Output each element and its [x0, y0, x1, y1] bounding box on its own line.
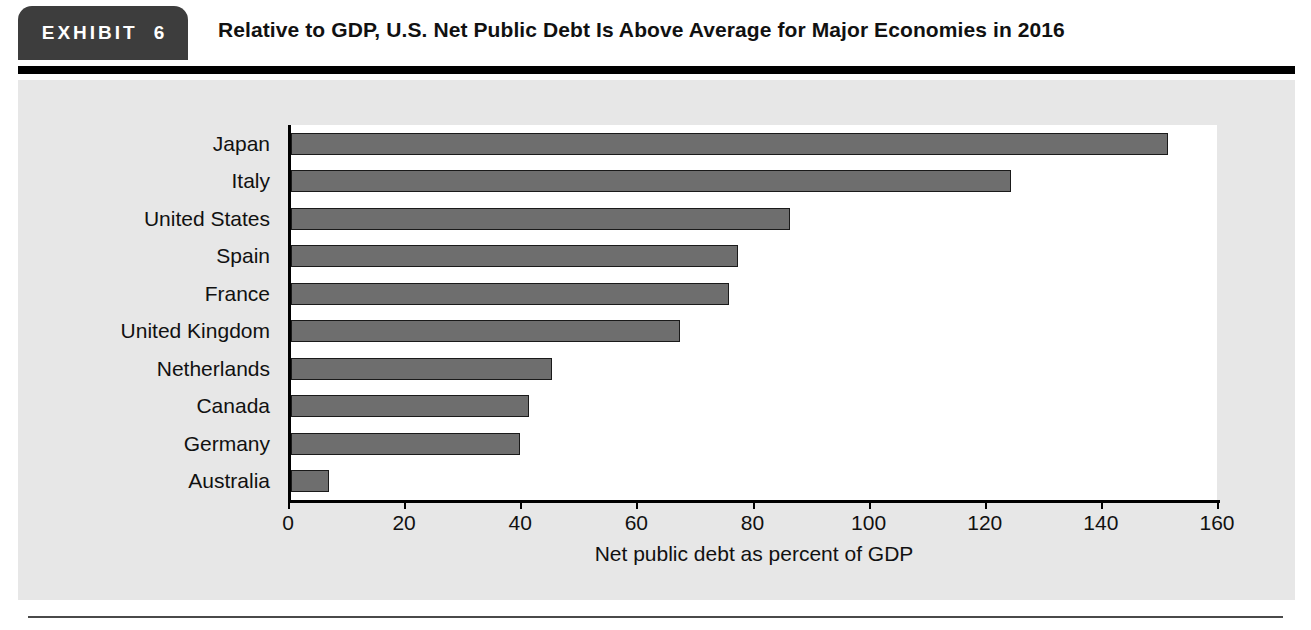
bar-row [291, 200, 1220, 238]
x-axis-tick-label: 160 [1199, 511, 1234, 535]
bar-row [291, 463, 1220, 501]
y-axis-tick-label: United Kingdom [18, 313, 280, 351]
x-axis-tick-mark [869, 500, 871, 509]
bar [291, 245, 738, 267]
bar [291, 170, 1011, 192]
y-axis-tick-labels: JapanItalyUnited StatesSpainFranceUnited… [18, 125, 280, 500]
chart-panel: JapanItalyUnited StatesSpainFranceUnited… [18, 80, 1295, 600]
y-axis-tick-label: Netherlands [18, 350, 280, 388]
y-axis-tick-label: Japan [18, 125, 280, 163]
exhibit-figure: EXHIBIT 6 Relative to GDP, U.S. Net Publ… [0, 0, 1311, 630]
bar-row [291, 425, 1220, 463]
y-axis-tick-label-text: Netherlands [157, 357, 270, 381]
exhibit-badge: EXHIBIT 6 [18, 6, 188, 60]
exhibit-badge-number: 6 [154, 22, 165, 44]
bar [291, 470, 329, 492]
y-axis-tick-label-text: France [205, 282, 270, 306]
bar [291, 320, 680, 342]
y-axis-tick-label: Italy [18, 163, 280, 201]
exhibit-badge-word: EXHIBIT [42, 22, 138, 44]
x-axis-tick-mark [288, 500, 290, 509]
bar-row [291, 388, 1220, 426]
bar-row [291, 238, 1220, 276]
x-axis-tick-mark [985, 500, 987, 509]
x-axis-tick-label: 140 [1083, 511, 1118, 535]
bar-row [291, 275, 1220, 313]
x-axis-tick-mark [753, 500, 755, 509]
footer-divider-rule [28, 616, 1283, 618]
bar [291, 208, 790, 230]
bar [291, 133, 1168, 155]
bar-row [291, 313, 1220, 351]
x-axis-tick-label: 120 [967, 511, 1002, 535]
bar-row [291, 350, 1220, 388]
x-axis-tick-mark [404, 500, 406, 509]
y-axis-tick-label: United States [18, 200, 280, 238]
bar [291, 358, 552, 380]
x-axis-tick-label: 20 [392, 511, 415, 535]
x-axis-tick-label: 100 [851, 511, 886, 535]
x-axis-tick-mark [1217, 500, 1219, 509]
y-axis-tick-label-text: Italy [231, 169, 270, 193]
y-axis-tick-label-text: Spain [216, 244, 270, 268]
x-axis-title: Net public debt as percent of GDP [288, 542, 1220, 566]
y-axis-tick-label: Germany [18, 425, 280, 463]
x-axis-tick-label: 60 [625, 511, 648, 535]
exhibit-header: EXHIBIT 6 Relative to GDP, U.S. Net Publ… [0, 0, 1311, 80]
y-axis-tick-label: Australia [18, 463, 280, 501]
bar [291, 283, 729, 305]
x-axis-tick-label: 40 [509, 511, 532, 535]
x-axis-tick-mark [636, 500, 638, 509]
y-axis-tick-label-text: United Kingdom [121, 319, 270, 343]
y-axis-tick-label-text: Canada [196, 394, 270, 418]
y-axis-tick-label: France [18, 275, 280, 313]
y-axis-tick-label: Canada [18, 388, 280, 426]
exhibit-title: Relative to GDP, U.S. Net Public Debt Is… [218, 18, 1065, 42]
x-axis-tick-label: 0 [282, 511, 294, 535]
y-axis-tick-label-text: Australia [188, 469, 270, 493]
x-axis-tick-mark [1101, 500, 1103, 509]
bar-row [291, 125, 1220, 163]
x-axis-ticks: 020406080100120140160 [288, 500, 1220, 546]
x-axis-tick-mark [520, 500, 522, 509]
bar [291, 395, 529, 417]
y-axis-tick-label: Spain [18, 238, 280, 276]
y-axis-tick-label-text: United States [144, 207, 270, 231]
x-axis-tick-label: 80 [741, 511, 764, 535]
bar [291, 433, 520, 455]
header-divider-rule [18, 66, 1295, 74]
y-axis-tick-label-text: Germany [184, 432, 270, 456]
y-axis-tick-label-text: Japan [213, 132, 270, 156]
bar-series [291, 125, 1220, 500]
bar-row [291, 163, 1220, 201]
